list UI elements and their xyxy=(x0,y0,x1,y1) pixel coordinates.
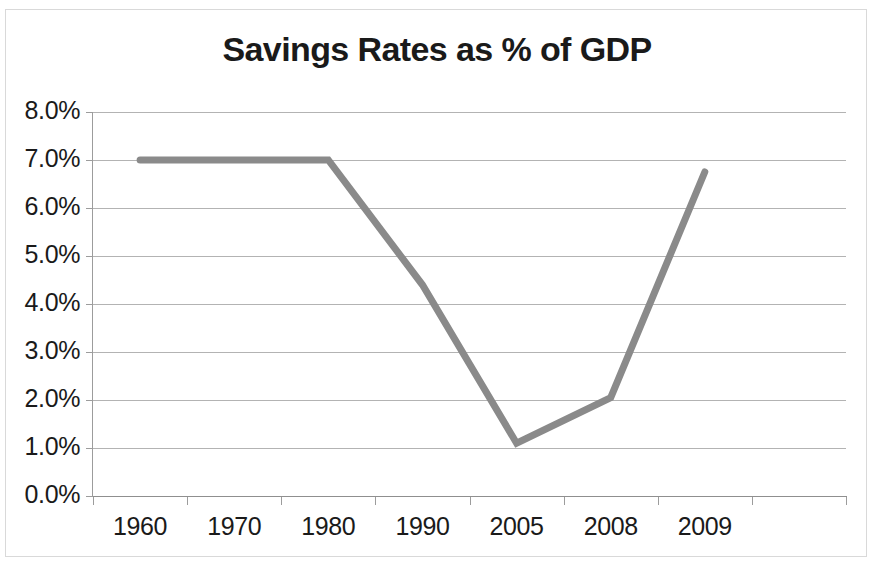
x-tick-mark xyxy=(375,497,376,505)
x-tick-mark xyxy=(187,497,188,505)
x-tick-mark xyxy=(752,497,753,505)
y-tick-mark xyxy=(86,208,93,209)
y-tick-mark xyxy=(86,496,93,497)
y-tick-mark xyxy=(86,448,93,449)
y-axis-tick-label: 4.0% xyxy=(25,288,80,317)
gridline-6.0pct xyxy=(93,208,846,209)
x-tick-mark xyxy=(564,497,565,505)
gridline-7.0pct xyxy=(93,160,846,161)
x-axis-tick-label: 2009 xyxy=(645,512,765,541)
y-axis-tick-label: 5.0% xyxy=(25,240,80,269)
x-tick-mark xyxy=(281,497,282,505)
y-tick-mark xyxy=(86,304,93,305)
y-axis-tick-label: 7.0% xyxy=(25,144,80,173)
y-axis-tick-label: 6.0% xyxy=(25,192,80,221)
y-axis-tick-label: 2.0% xyxy=(25,384,80,413)
y-tick-mark xyxy=(86,400,93,401)
gridline-3.0pct xyxy=(93,352,846,353)
chart-title: Savings Rates as % of GDP xyxy=(6,30,867,69)
x-tick-mark xyxy=(846,497,847,505)
y-tick-mark xyxy=(86,112,93,113)
gridline-4.0pct xyxy=(93,304,846,305)
gridline-8.0pct xyxy=(93,112,846,113)
chart-container: Savings Rates as % of GDP 8.0%7.0%6.0%5.… xyxy=(5,9,867,557)
y-axis-tick-label: 0.0% xyxy=(25,480,80,509)
x-tick-mark xyxy=(658,497,659,505)
x-tick-mark xyxy=(470,497,471,505)
y-axis-tick-label: 3.0% xyxy=(25,336,80,365)
y-axis-tick-label: 1.0% xyxy=(25,432,80,461)
y-axis-tick-label: 8.0% xyxy=(25,96,80,125)
y-tick-mark xyxy=(86,256,93,257)
y-tick-mark xyxy=(86,160,93,161)
x-tick-mark xyxy=(93,497,94,505)
data-series-layer xyxy=(6,10,867,557)
gridline-2.0pct xyxy=(93,400,846,401)
gridline-5.0pct xyxy=(93,256,846,257)
y-tick-mark xyxy=(86,352,93,353)
gridline-1.0pct xyxy=(93,448,846,449)
y-axis-labels: 8.0%7.0%6.0%5.0%4.0%3.0%2.0%1.0%0.0% xyxy=(6,10,80,557)
